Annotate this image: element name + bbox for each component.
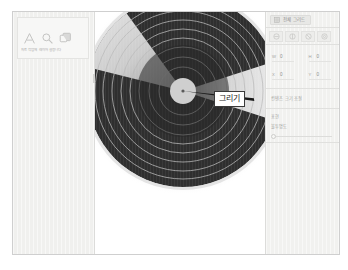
field-underline [272, 79, 294, 80]
grid-icon [274, 17, 280, 23]
grid-mode-label: 전체 그리드 [283, 17, 305, 23]
left-sidebar: 차트 작업에 레이어 설정니다 [13, 12, 95, 254]
tool-card-caption: 차트 작업에 레이어 설정니다 [21, 48, 89, 53]
appearance-label: 표현 [271, 113, 279, 119]
drawing-tooltip: 그리기 [214, 91, 245, 107]
app-window: 차트 작업에 레이어 설정니다 [12, 11, 340, 255]
height-value: 0 [317, 54, 320, 59]
align-center-icon [289, 33, 296, 40]
field-underline [272, 61, 294, 62]
tooltip-label: 그리기 [219, 94, 240, 103]
text-tool-icon[interactable] [23, 32, 36, 45]
align-center-button[interactable] [285, 31, 299, 42]
magnifier-pin-icon[interactable] [41, 32, 54, 45]
y-value: 0 [317, 72, 320, 77]
distribute-button[interactable] [317, 31, 331, 42]
radial-chart-svg[interactable] [95, 12, 265, 228]
dimension-fields-section: W 0 H 0 X 0 Y 0 [266, 45, 339, 89]
content-size-section[interactable]: 컨텐츠 크기 조절 [266, 89, 339, 109]
x-field[interactable]: X 0 [266, 72, 303, 77]
align-button-row [269, 31, 331, 42]
tool-card[interactable]: 차트 작업에 레이어 설정니다 [17, 17, 89, 59]
width-label: W [272, 54, 277, 59]
slider-track[interactable] [274, 136, 332, 137]
field-row-xy: X 0 Y 0 [266, 72, 339, 77]
height-field[interactable]: H 0 [303, 54, 340, 59]
y-label: Y [309, 72, 314, 77]
tool-icon-row [23, 32, 72, 45]
grid-header-section: 전체 그리드 [266, 12, 339, 28]
x-value: 0 [280, 72, 283, 77]
x-label: X [272, 72, 277, 77]
align-toolbar-section [266, 28, 339, 45]
align-left-button[interactable] [269, 31, 283, 42]
width-field[interactable]: W 0 [266, 54, 303, 59]
field-underline [309, 79, 331, 80]
width-value: 0 [280, 54, 283, 59]
opacity-label: 불투명도 [271, 123, 287, 129]
align-left-icon [273, 33, 280, 40]
slider-handle[interactable] [271, 134, 276, 139]
content-size-label: 컨텐츠 크기 조절 [271, 95, 302, 101]
align-right-icon [305, 33, 312, 40]
field-row-wh: W 0 H 0 [266, 54, 339, 59]
height-label: H [309, 54, 314, 59]
grid-mode-chip[interactable]: 전체 그리드 [270, 15, 311, 25]
duplicate-shapes-icon[interactable] [59, 32, 72, 45]
radial-chart[interactable] [95, 12, 265, 228]
right-sidebar: 전체 그리드 [265, 12, 339, 254]
opacity-slider[interactable] [271, 134, 333, 140]
chart-canvas[interactable]: 그리기 [95, 12, 265, 254]
distribute-icon [321, 33, 328, 40]
y-field[interactable]: Y 0 [303, 72, 340, 77]
align-right-button[interactable] [301, 31, 315, 42]
field-underline [309, 61, 331, 62]
appearance-section: 표현 불투명도 [266, 109, 339, 143]
